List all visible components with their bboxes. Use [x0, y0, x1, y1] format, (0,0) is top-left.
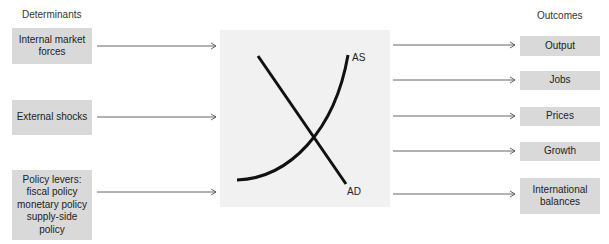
arrow-icon — [393, 148, 515, 154]
arrow-icon — [393, 42, 515, 48]
arrow-icon — [97, 114, 216, 120]
connector-arrows — [0, 0, 609, 244]
aggregate-demand-curve — [258, 56, 346, 184]
arrow-icon — [393, 191, 515, 197]
as-curve-label: AS — [352, 52, 365, 63]
arrow-icon — [393, 113, 515, 119]
arrow-icon — [97, 43, 216, 49]
ad-curve-label: AD — [347, 186, 361, 197]
arrow-icon — [393, 77, 515, 83]
arrow-icon — [97, 189, 216, 195]
